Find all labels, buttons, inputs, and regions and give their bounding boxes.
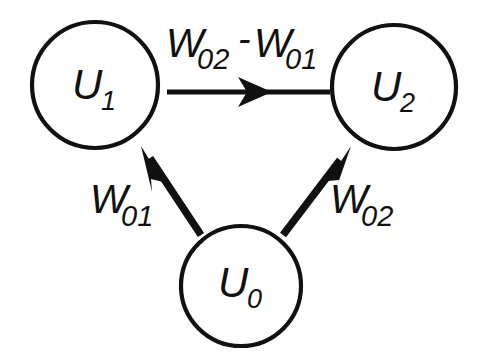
diagram-svg: U 1 U 2 U 0 W 02 - W 01 W 01 [0, 0, 483, 359]
edge-u0-to-u2-label: W 02 [330, 177, 393, 232]
edge-u1-to-u2-label-operator: - [238, 18, 251, 60]
edge-u0-to-u2-label-sub: 02 [361, 200, 393, 232]
edge-u1-to-u2 [167, 77, 330, 107]
diagram-canvas: U 1 U 2 U 0 W 02 - W 01 W 01 [0, 0, 483, 359]
node-u2-subscript: 2 [399, 88, 415, 118]
node-u0-label: U [218, 259, 249, 306]
edge-u0-to-u1-label: W 01 [90, 177, 153, 232]
edge-u0-to-u1-label-sub: 01 [121, 200, 153, 232]
node-u2[interactable]: U 2 [332, 25, 456, 149]
edge-u1-to-u2-label: W 02 - W 01 [166, 18, 317, 75]
edge-u1-to-u2-label-sub-1: 02 [197, 43, 229, 75]
node-u2-label: U [371, 63, 402, 110]
node-u1[interactable]: U 1 [32, 22, 158, 148]
node-u1-subscript: 1 [101, 86, 116, 116]
node-u0[interactable]: U 0 [181, 226, 301, 346]
edge-u1-to-u2-label-sub-2: 01 [285, 43, 317, 75]
node-u0-subscript: 0 [247, 284, 262, 314]
node-u1-label: U [72, 61, 103, 108]
edge-u0-to-u1-line [150, 158, 201, 235]
